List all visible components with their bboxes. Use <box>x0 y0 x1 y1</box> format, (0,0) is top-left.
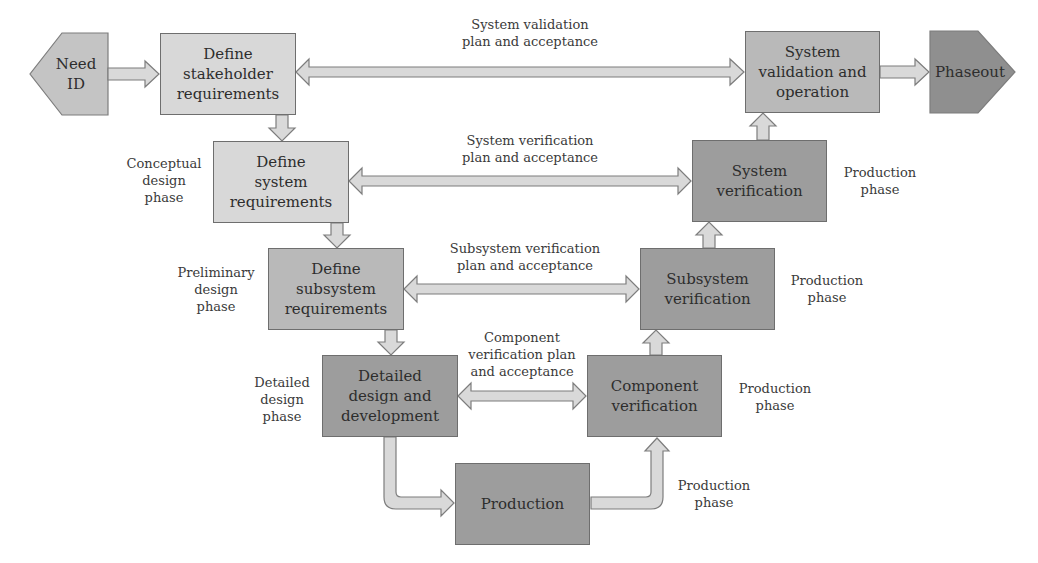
conceptual-design-phase-label: Conceptual design phase <box>116 155 212 206</box>
box-line: Define <box>285 259 388 279</box>
preliminary-design-phase-label: Preliminary design phase <box>166 264 266 315</box>
label-line: verification plan <box>460 346 584 363</box>
box-line: requirements <box>230 192 333 212</box>
label-line: phase <box>830 181 930 198</box>
need-id-label: Need ID <box>48 54 104 94</box>
label-line: Production <box>777 272 877 289</box>
label-line: Component <box>460 329 584 346</box>
label-line: and acceptance <box>460 363 584 380</box>
arrow-validation-to-phaseout <box>880 59 929 85</box>
subsystem-verification-plan-label: Subsystem verification plan and acceptan… <box>430 240 620 274</box>
label-line: System verification <box>440 132 620 149</box>
box-line: system <box>230 172 333 192</box>
arrow-need-to-stakeholder <box>108 61 159 87</box>
label-line: phase <box>166 298 266 315</box>
label-line: Preliminary <box>166 264 266 281</box>
arrow-validation-plan <box>296 59 744 85</box>
system-validation-operation-box: System validation and operation <box>745 31 880 113</box>
production-phase-label-component: Production phase <box>725 380 825 414</box>
label-line: design <box>244 391 320 408</box>
detailed-design-phase-label: Detailed design phase <box>244 374 320 425</box>
box-line: verification <box>664 289 750 309</box>
box-line: subsystem <box>285 279 388 299</box>
arrow-system-ver-up <box>750 113 776 140</box>
arrow-component-verification-plan <box>458 383 586 409</box>
arrow-system-verification-plan <box>349 168 691 194</box>
box-line: requirements <box>177 84 280 104</box>
label-line: phase <box>116 189 212 206</box>
arrow-design-to-production <box>384 437 454 516</box>
production-phase-label-subsystem: Production phase <box>777 272 877 306</box>
box-line: System <box>758 42 866 62</box>
box-line: Component <box>611 376 699 396</box>
arrow-system-req-down <box>324 223 350 248</box>
box-line: development <box>341 406 439 426</box>
label-line: phase <box>244 408 320 425</box>
box-line: Define <box>177 44 280 64</box>
box-line: verification <box>716 181 802 201</box>
component-verification-plan-label: Component verification plan and acceptan… <box>460 329 584 380</box>
define-system-requirements-box: Define system requirements <box>213 141 349 223</box>
arrow-component-ver-up <box>643 330 669 355</box>
subsystem-verification-box: Subsystem verification <box>640 248 775 330</box>
arrow-stakeholder-down <box>269 115 295 141</box>
box-line: verification <box>611 396 699 416</box>
label-line: Production <box>725 380 825 397</box>
component-verification-box: Component verification <box>587 355 722 437</box>
box-line: Detailed <box>341 366 439 386</box>
arrow-production-to-component <box>591 438 669 509</box>
box-line: System <box>716 161 802 181</box>
define-subsystem-requirements-box: Define subsystem requirements <box>268 248 404 330</box>
production-box: Production <box>455 463 590 545</box>
box-line: stakeholder <box>177 64 280 84</box>
label-line: Detailed <box>244 374 320 391</box>
label-line: phase <box>725 397 825 414</box>
label-line: design <box>116 172 212 189</box>
system-verification-box: System verification <box>692 140 827 222</box>
label-line: System validation <box>440 16 620 33</box>
label-line: Conceptual <box>116 155 212 172</box>
system-verification-plan-label: System verification plan and acceptance <box>440 132 620 166</box>
label-line: Production <box>830 164 930 181</box>
label-line: phase <box>777 289 877 306</box>
box-line: requirements <box>285 299 388 319</box>
production-phase-label-production: Production phase <box>664 477 764 511</box>
label-line: phase <box>664 494 764 511</box>
define-stakeholder-requirements-box: Define stakeholder requirements <box>160 33 296 115</box>
label-line: plan and acceptance <box>440 149 620 166</box>
arrow-subsystem-verification-plan <box>404 276 639 302</box>
label-line: design <box>166 281 266 298</box>
box-line: operation <box>758 82 866 102</box>
label-line: Subsystem verification <box>430 240 620 257</box>
arrow-subsystem-ver-up <box>696 222 722 248</box>
production-phase-label-system: Production phase <box>830 164 930 198</box>
detailed-design-development-box: Detailed design and development <box>322 355 458 437</box>
box-line: validation and <box>758 62 866 82</box>
box-line: design and <box>341 386 439 406</box>
arrow-subsystem-req-down <box>378 330 404 355</box>
label-line: plan and acceptance <box>430 257 620 274</box>
production-label: Production <box>481 494 564 514</box>
box-line: Define <box>230 152 333 172</box>
box-line: Subsystem <box>664 269 750 289</box>
label-line: plan and acceptance <box>440 33 620 50</box>
phaseout-label: Phaseout <box>930 62 1010 82</box>
validation-plan-label: System validation plan and acceptance <box>440 16 620 50</box>
label-line: Production <box>664 477 764 494</box>
